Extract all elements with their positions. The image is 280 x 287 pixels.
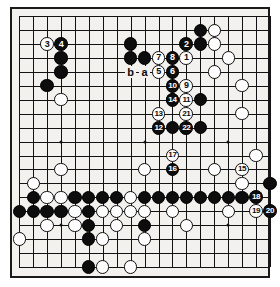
move-marker-7[interactable]: 7 [152, 51, 166, 65]
white-stone[interactable] [54, 191, 67, 204]
point-label-b: b [125, 66, 136, 78]
black-stone[interactable] [68, 191, 81, 204]
white-stone[interactable] [222, 51, 235, 64]
white-stone[interactable] [235, 177, 248, 190]
move-marker-3[interactable]: 3 [40, 37, 54, 51]
black-stone[interactable] [166, 191, 179, 204]
black-stone[interactable] [82, 260, 95, 273]
white-stone[interactable] [13, 232, 26, 245]
white-stone[interactable] [96, 260, 109, 273]
white-stone[interactable] [96, 232, 109, 245]
white-stone[interactable] [54, 163, 67, 176]
move-marker-17[interactable]: 17 [166, 149, 180, 163]
black-stone[interactable] [180, 191, 193, 204]
black-stone[interactable] [263, 177, 276, 190]
move-marker-12[interactable]: 12 [152, 121, 166, 135]
move-marker-16[interactable]: 16 [166, 163, 180, 177]
go-board[interactable]: 12345678910111213141516171819202122ba [10, 7, 270, 278]
white-stone[interactable] [40, 219, 53, 232]
black-stone[interactable] [235, 191, 248, 204]
stone-layer: 12345678910111213141516171819202122ba [12, 9, 268, 276]
black-stone[interactable] [82, 219, 95, 232]
white-stone[interactable] [166, 205, 179, 218]
black-stone[interactable] [54, 205, 67, 218]
white-stone[interactable] [138, 163, 151, 176]
black-stone[interactable] [138, 51, 151, 64]
white-stone[interactable] [235, 107, 248, 120]
white-stone[interactable] [124, 205, 137, 218]
white-stone[interactable] [54, 93, 67, 106]
white-stone[interactable] [208, 37, 221, 50]
white-stone[interactable] [110, 219, 123, 232]
move-marker-10[interactable]: 10 [166, 79, 180, 93]
black-stone[interactable] [54, 51, 67, 64]
black-stone[interactable] [152, 191, 165, 204]
white-stone[interactable] [40, 191, 53, 204]
black-stone[interactable] [124, 37, 137, 50]
white-stone[interactable] [180, 219, 193, 232]
grid-line-vertical [270, 16, 271, 267]
black-stone[interactable] [194, 24, 207, 37]
white-stone[interactable] [208, 163, 221, 176]
move-marker-15[interactable]: 15 [235, 163, 249, 177]
point-label-a: a [139, 66, 150, 78]
black-stone[interactable] [194, 93, 207, 106]
black-stone[interactable] [82, 191, 95, 204]
black-stone[interactable] [82, 205, 95, 218]
black-stone[interactable] [208, 191, 221, 204]
black-stone[interactable] [27, 191, 40, 204]
move-marker-22[interactable]: 22 [179, 121, 193, 135]
white-stone[interactable] [68, 219, 81, 232]
move-marker-4[interactable]: 4 [54, 37, 68, 51]
white-stone[interactable] [124, 260, 137, 273]
black-stone[interactable] [110, 191, 123, 204]
white-stone[interactable] [68, 205, 81, 218]
white-stone[interactable] [96, 205, 109, 218]
move-marker-11[interactable]: 11 [179, 93, 193, 107]
white-stone[interactable] [208, 65, 221, 78]
go-diagram-figure: 12345678910111213141516171819202122ba [0, 0, 280, 287]
move-marker-2[interactable]: 2 [179, 37, 193, 51]
move-marker-18[interactable]: 18 [249, 190, 263, 204]
black-stone[interactable] [124, 51, 137, 64]
move-marker-6[interactable]: 6 [166, 65, 180, 79]
black-stone[interactable] [40, 205, 53, 218]
black-stone[interactable] [194, 121, 207, 134]
black-stone[interactable] [40, 79, 53, 92]
move-marker-9[interactable]: 9 [179, 79, 193, 93]
black-stone[interactable] [27, 205, 40, 218]
black-stone[interactable] [194, 37, 207, 50]
white-stone[interactable] [249, 149, 262, 162]
move-marker-21[interactable]: 21 [179, 107, 193, 121]
black-stone[interactable] [96, 191, 109, 204]
white-stone[interactable] [138, 205, 151, 218]
white-stone[interactable] [138, 232, 151, 245]
move-marker-13[interactable]: 13 [152, 107, 166, 121]
move-marker-8[interactable]: 8 [166, 51, 180, 65]
black-stone[interactable] [54, 65, 67, 78]
move-marker-14[interactable]: 14 [166, 93, 180, 107]
black-stone[interactable] [138, 191, 151, 204]
white-stone[interactable] [124, 191, 137, 204]
white-stone[interactable] [235, 79, 248, 92]
black-stone[interactable] [166, 121, 179, 134]
black-stone[interactable] [194, 191, 207, 204]
white-stone[interactable] [222, 205, 235, 218]
white-stone[interactable] [27, 177, 40, 190]
move-marker-1[interactable]: 1 [179, 51, 193, 65]
move-marker-20[interactable]: 20 [263, 204, 277, 218]
white-stone[interactable] [110, 205, 123, 218]
move-marker-5[interactable]: 5 [152, 65, 166, 79]
black-stone[interactable] [138, 219, 151, 232]
move-marker-19[interactable]: 19 [249, 204, 263, 218]
black-stone[interactable] [13, 205, 26, 218]
white-stone[interactable] [208, 24, 221, 37]
black-stone[interactable] [82, 232, 95, 245]
black-stone[interactable] [222, 191, 235, 204]
